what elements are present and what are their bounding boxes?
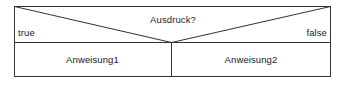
condition-label: Ausdruck? bbox=[0, 14, 346, 25]
false-branch-label: false bbox=[0, 27, 327, 38]
true-statement-label: Anweisung1 bbox=[14, 54, 171, 65]
diagram-canvas bbox=[0, 0, 346, 85]
false-statement-label: Anweisung2 bbox=[171, 54, 331, 65]
structogram-diagram: Ausdruck? true false Anweisung1 Anweisun… bbox=[0, 0, 346, 85]
